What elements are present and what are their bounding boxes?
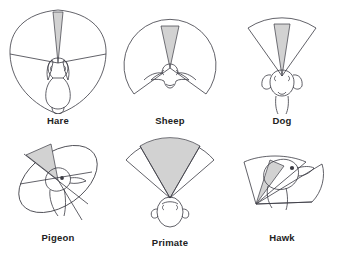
pigeon-field-boundary-a bbox=[24, 154, 88, 204]
hawk-field-boundary bbox=[256, 202, 312, 204]
pigeon-eye bbox=[60, 176, 64, 180]
panel-label-hawk: Hawk bbox=[226, 232, 338, 243]
primate-visual-field-diagram bbox=[114, 132, 226, 237]
panel-primate: Primate bbox=[114, 132, 226, 254]
panel-label-dog: Dog bbox=[226, 115, 338, 126]
hare-visual-field-diagram bbox=[2, 2, 114, 114]
hare-body-outline bbox=[46, 78, 70, 109]
primate-eye-right bbox=[176, 205, 178, 210]
sheep-binocular-overlap-wedge bbox=[161, 26, 179, 68]
pigeon-visual-field-diagram bbox=[2, 132, 114, 232]
panel-dog: Dog bbox=[226, 2, 338, 130]
pigeon-beak bbox=[70, 178, 86, 184]
primate-binocular-overlap-wedge bbox=[140, 138, 200, 198]
panel-label-hare: Hare bbox=[2, 115, 114, 126]
pigeon-binocular-overlap-wedge bbox=[26, 144, 58, 180]
hawk-eye bbox=[290, 166, 294, 170]
pigeon-neck bbox=[50, 189, 66, 216]
dog-eye-left bbox=[275, 76, 277, 81]
hawk-binocular-overlap-wedge bbox=[256, 160, 284, 204]
panel-hawk: Hawk bbox=[226, 132, 338, 254]
hawk-visual-field-diagram bbox=[226, 132, 338, 232]
panel-label-pigeon: Pigeon bbox=[2, 232, 114, 243]
pigeon-field-boundary-c bbox=[58, 180, 82, 220]
sheep-muzzle bbox=[166, 84, 174, 86]
panel-label-primate: Primate bbox=[114, 237, 226, 248]
primate-brow bbox=[162, 202, 178, 204]
dog-neck bbox=[276, 96, 289, 114]
dog-eye-right bbox=[288, 76, 290, 81]
panel-hare: Hare bbox=[2, 2, 114, 130]
dog-muzzle bbox=[278, 92, 286, 94]
visual-field-comparison-figure: Hare Sheep bbox=[0, 0, 338, 256]
primate-eye-left bbox=[163, 205, 165, 210]
dog-visual-field-diagram bbox=[226, 2, 338, 114]
panel-pigeon: Pigeon bbox=[2, 132, 114, 254]
sheep-visual-field-diagram bbox=[114, 2, 226, 114]
panel-label-sheep: Sheep bbox=[114, 115, 226, 126]
hare-binocular-overlap-wedge bbox=[53, 12, 63, 63]
panel-sheep: Sheep bbox=[114, 2, 226, 130]
